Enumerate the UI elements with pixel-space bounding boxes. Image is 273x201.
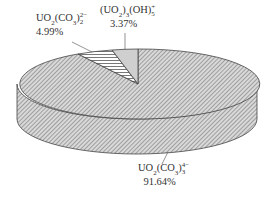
slice-uo2co3-3	[20, 49, 260, 119]
label-uo23oh5: (UO2)3(OH)+5 3.37%	[100, 4, 155, 30]
pct-uo23oh5: 3.37%	[100, 18, 155, 30]
label-uo2co3-2: UO2(CO3)2−2 4.99%	[36, 12, 87, 38]
pct-uo2co3-2: 4.99%	[36, 26, 87, 38]
leader-line-s2	[72, 42, 92, 52]
label-uo2co3-3: UO2(CO3)4−3 91.64%	[138, 162, 189, 188]
pct-uo2co3-3: 91.64%	[138, 176, 189, 188]
